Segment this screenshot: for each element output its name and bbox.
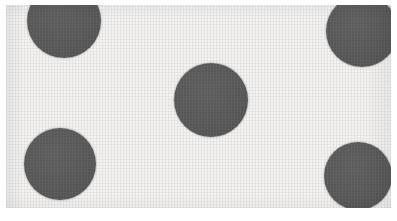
dot-top-right <box>326 5 391 67</box>
image-canvas <box>0 0 397 221</box>
dot-bottom-left <box>24 128 96 200</box>
dot-bottom-right <box>324 142 391 208</box>
dot-center <box>174 63 248 137</box>
scanned-paper-area <box>6 5 391 208</box>
dot-top-left <box>27 5 101 58</box>
